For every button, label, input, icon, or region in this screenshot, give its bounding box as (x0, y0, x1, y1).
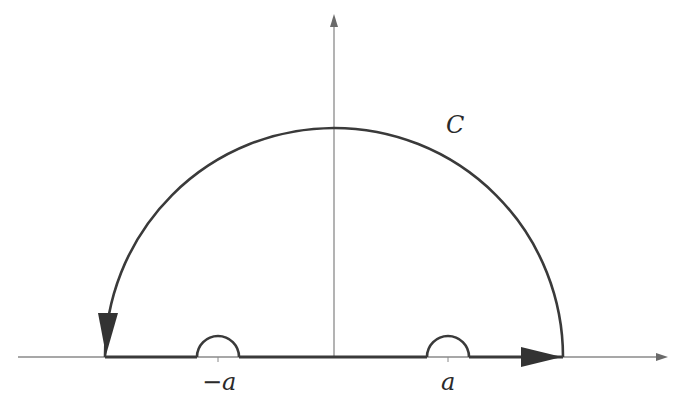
contour-right-arrow-icon (521, 347, 562, 367)
contour-diagram (0, 0, 694, 411)
minus-a-label: −a (202, 370, 236, 394)
indent-a (427, 336, 469, 357)
contour-down-arrow-icon (98, 313, 118, 355)
contour-label: C (446, 113, 464, 137)
real-axis-arrowhead-icon (656, 353, 668, 361)
a-label: a (441, 370, 455, 394)
indent-minus-a (197, 336, 239, 357)
imaginary-axis-arrowhead-icon (330, 14, 338, 27)
